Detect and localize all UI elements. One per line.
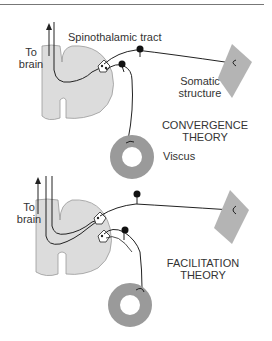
visceral-ganglion-cell [122,227,129,234]
spinothalamic-tract-label: Spinothalamic tract [68,31,162,43]
viscus-shape [114,289,146,321]
title-line-1: FACILITATION [158,257,248,269]
somatic-structure-shape [214,190,249,244]
somatic-ganglion-cell [137,46,144,53]
to-text: To [14,46,48,58]
facilitation-panel [35,176,249,321]
arrow-up-icon [35,177,41,184]
spinal-cord-cross-section [42,45,114,120]
visceral-ganglion-cell [119,61,126,68]
title-line-2: THEORY [158,269,248,281]
brain-text: brain [14,58,48,70]
convergence-theory-title: CONVERGENCE THEORY [160,119,250,143]
to-text: To [14,201,44,213]
to-brain-label: To brain [14,201,44,225]
somatic-structure-label: Somatic structure [172,75,228,99]
title-line-1: CONVERGENCE [160,119,250,131]
facilitation-theory-title: FACILITATION THEORY [158,257,248,281]
title-line-2: THEORY [160,131,250,143]
viscus-label: Viscus [163,150,195,162]
somatic-text: Somatic [172,75,228,87]
viscus-shape [116,141,148,173]
arrow-up-icon [46,23,52,30]
to-brain-label: To brain [14,46,48,70]
brain-text: brain [14,213,44,225]
somatic-ganglion-cell [134,191,141,198]
structure-text: structure [172,87,228,99]
